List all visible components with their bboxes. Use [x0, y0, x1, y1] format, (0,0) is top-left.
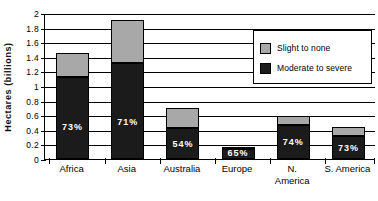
bar-segment-moderate-to-severe[interactable] [111, 63, 144, 159]
x-axis-tick-label: S. America [320, 163, 375, 175]
legend-label-slight-to-none: Slight to none [277, 43, 330, 53]
bar-segment-moderate-to-severe[interactable] [277, 125, 310, 159]
y-axis-tick-label: 1.8 [26, 24, 39, 33]
y-axis-tick-label: 0 [34, 156, 39, 165]
y-axis-tick-label: 1.4 [26, 54, 39, 63]
legend-swatch-moderate-to-severe [260, 63, 271, 74]
y-axis-tick-label: 0.4 [26, 127, 39, 136]
bar-segment-slight-to-none[interactable] [222, 147, 255, 149]
bar-segment-slight-to-none[interactable] [56, 53, 89, 77]
legend-label-moderate-to-severe: Moderate to severe [277, 63, 352, 73]
gridline [45, 102, 375, 103]
y-axis-tick-label: 0.8 [26, 97, 39, 106]
bar-column[interactable] [277, 116, 310, 159]
bar-column[interactable] [222, 148, 255, 159]
y-axis-tick-label: 0.2 [26, 141, 39, 150]
x-axis-tick-label: N. America [265, 163, 320, 187]
y-axis-tick [41, 43, 46, 44]
x-axis-tick-label: Australia [154, 163, 209, 175]
y-axis-tick-label: 1.2 [26, 68, 39, 77]
x-axis-tick-label: Africa [44, 163, 99, 175]
bar-segment-slight-to-none[interactable] [277, 116, 310, 125]
y-axis-tick-label: 1.6 [26, 39, 39, 48]
y-axis-title: Hectares (billions) [3, 42, 13, 131]
legend-item-slight-to-none: Slight to none [260, 38, 365, 58]
bar-column[interactable] [332, 127, 365, 159]
y-axis-tick [41, 87, 46, 88]
legend-swatch-slight-to-none [260, 43, 271, 54]
y-axis-tick-label: 2 [34, 10, 39, 19]
y-axis-tick [41, 72, 46, 73]
legend-item-moderate-to-severe: Moderate to severe [260, 58, 365, 78]
gridline [45, 131, 375, 132]
gridline [45, 14, 375, 15]
y-axis-tick [41, 131, 46, 132]
bar-segment-slight-to-none[interactable] [166, 108, 199, 128]
bar-segment-slight-to-none[interactable] [111, 20, 144, 64]
bar-column[interactable] [111, 20, 144, 159]
y-axis-tick [41, 14, 46, 15]
y-axis-tick-label: 1 [34, 83, 39, 92]
x-axis-tick-labels: AfricaAsiaAustraliaEuropeN. AmericaS. Am… [44, 163, 375, 201]
bar-segment-moderate-to-severe[interactable] [166, 128, 199, 159]
bar-column[interactable] [56, 53, 89, 159]
x-axis-tick-label: Asia [99, 163, 154, 175]
bar-segment-slight-to-none[interactable] [332, 127, 365, 136]
x-axis-tick-label: Europe [210, 163, 265, 175]
bar-segment-moderate-to-severe[interactable] [222, 149, 255, 159]
y-axis-tick [41, 102, 46, 103]
y-axis-tick [41, 145, 46, 146]
gridline [45, 116, 375, 117]
y-axis-tick [41, 160, 46, 161]
gridline [45, 87, 375, 88]
y-axis-tick [41, 29, 46, 30]
y-axis-title-container: Hectares (billions) [0, 14, 16, 160]
bar-segment-moderate-to-severe[interactable] [56, 77, 89, 159]
y-axis-tick [41, 58, 46, 59]
gridline [45, 145, 375, 146]
chart-legend: Slight to none Moderate to severe [253, 30, 372, 84]
y-axis-tick-labels: 00.20.40.60.811.21.41.61.82 [16, 0, 42, 201]
y-axis-tick-label: 0.6 [26, 112, 39, 121]
bar-column[interactable] [166, 108, 199, 159]
y-axis-tick [41, 116, 46, 117]
bar-chart: Hectares (billions) 00.20.40.60.811.21.4… [0, 0, 378, 201]
bar-segment-moderate-to-severe[interactable] [332, 136, 365, 159]
